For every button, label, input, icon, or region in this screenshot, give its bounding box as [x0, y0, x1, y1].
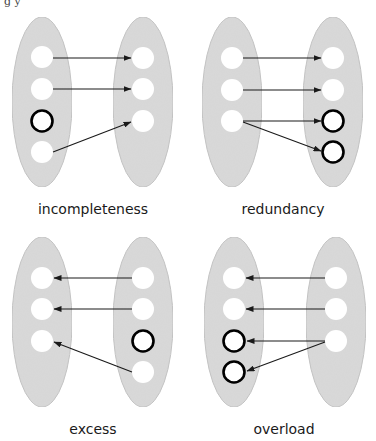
right-set-ellipse [306, 237, 366, 407]
right-node [132, 78, 154, 100]
panel-label-excess: excess [69, 421, 116, 437]
panel-overload: overload [204, 237, 366, 437]
panel-label-overload: overload [253, 421, 314, 437]
right-node [132, 361, 154, 383]
right-node [132, 47, 154, 69]
panels-container: incompletenessredundancyexcessoverload [12, 17, 366, 437]
left-node [223, 267, 245, 289]
left-node [31, 267, 53, 289]
panel-incompleteness: incompleteness [12, 17, 173, 217]
left-highlighted-node [32, 111, 53, 132]
right-node [325, 298, 347, 320]
left-node [31, 141, 53, 163]
left-highlighted-node [224, 362, 245, 383]
right-node [322, 47, 344, 69]
right-node [132, 298, 154, 320]
left-node [31, 298, 53, 320]
top-caption-fragment: g y [4, 0, 22, 8]
left-node [221, 79, 243, 101]
right-node [325, 267, 347, 289]
left-node [31, 330, 53, 352]
panel-label-incompleteness: incompleteness [38, 201, 148, 217]
right-node [325, 330, 347, 352]
right-highlighted-node [323, 142, 344, 163]
left-set-ellipse [12, 237, 72, 407]
mapping-diagram: g y incompletenessredundancyexcessoverlo… [0, 0, 376, 441]
left-node [221, 110, 243, 132]
right-highlighted-node [323, 111, 344, 132]
left-node [221, 47, 243, 69]
panel-label-redundancy: redundancy [241, 201, 324, 217]
panel-redundancy: redundancy [202, 17, 363, 217]
right-node [132, 110, 154, 132]
right-highlighted-node [133, 331, 154, 352]
left-highlighted-node [224, 331, 245, 352]
right-node [322, 79, 344, 101]
left-node [31, 78, 53, 100]
panel-excess: excess [12, 237, 173, 437]
left-node [31, 46, 53, 68]
right-set-ellipse [113, 17, 173, 187]
left-set-ellipse [202, 17, 262, 187]
right-node [132, 267, 154, 289]
left-node [223, 298, 245, 320]
